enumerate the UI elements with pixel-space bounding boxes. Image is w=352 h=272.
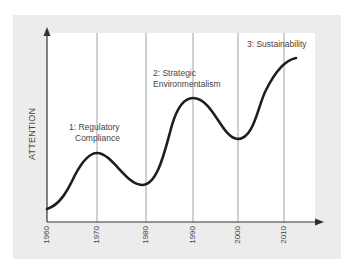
x-tick-1960: 1960 xyxy=(42,226,52,248)
x-tick-1970: 1970 xyxy=(92,226,102,248)
annotation-line: 2: Strategic xyxy=(153,68,221,79)
x-axis-arrow-icon xyxy=(315,219,324,226)
x-tick-1980: 1980 xyxy=(141,226,151,248)
y-axis-label: ATTENTION xyxy=(27,108,37,160)
annotation-line: Compliance xyxy=(69,133,120,144)
annotation-regulatory-compliance: 1: Regulatory Compliance xyxy=(69,122,120,144)
x-tick-2000: 2000 xyxy=(233,226,243,248)
annotation-line: 3: Sustainability xyxy=(247,39,307,50)
x-tick-2010: 2010 xyxy=(279,226,289,248)
annotation-line: Environmentalism xyxy=(153,79,221,90)
gridlines xyxy=(97,33,284,222)
annotation-sustainability: 3: Sustainability xyxy=(247,39,307,50)
y-axis-arrow-icon xyxy=(44,27,51,36)
annotation-strategic-environmentalism: 2: Strategic Environmentalism xyxy=(153,68,221,90)
annotation-line: 1: Regulatory xyxy=(69,122,120,133)
x-tick-1990: 1990 xyxy=(188,226,198,248)
